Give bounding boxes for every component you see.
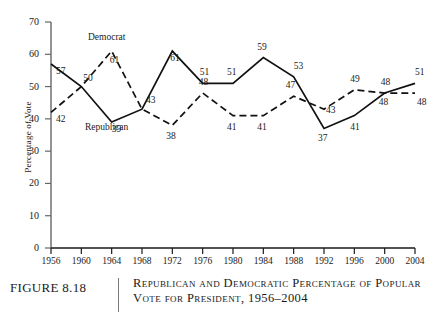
point-value-label: 48	[199, 77, 209, 87]
point-value-label: 41	[350, 122, 360, 132]
y-axis-tick-label: 40	[13, 113, 39, 124]
point-value-label: 57	[56, 66, 66, 76]
figure-container: Percentage of Vote 010203040506070 19561…	[0, 0, 448, 320]
y-axis-tick-label: 0	[13, 242, 39, 253]
y-axis-ticks	[45, 22, 51, 248]
point-value-label: 51	[415, 67, 425, 77]
x-axis-tick-label: 1964	[95, 256, 129, 266]
point-value-label: 61	[110, 55, 120, 65]
figure-caption: FIGURE 8.18 Republican and Democratic Pe…	[0, 276, 448, 320]
point-value-label: 50	[83, 73, 93, 83]
series-lines	[51, 51, 415, 128]
line-chart-svg	[0, 0, 448, 270]
point-value-label: 43	[326, 105, 336, 115]
caption-divider	[118, 278, 119, 312]
point-value-label: 48	[417, 97, 427, 107]
x-axis-tick-label: 1960	[64, 256, 98, 266]
y-axis-tick-label: 30	[13, 145, 39, 156]
x-axis-ticks	[51, 248, 415, 254]
point-value-label: 51	[227, 67, 237, 77]
x-axis-tick-label: 1992	[307, 256, 341, 266]
x-axis-tick-label: 2004	[398, 256, 432, 266]
point-value-label: 53	[294, 61, 304, 71]
y-axis-tick-label: 70	[13, 16, 39, 27]
point-value-label: 47	[286, 80, 296, 90]
x-axis-tick-label: 1976	[186, 256, 220, 266]
point-value-label: 41	[227, 122, 237, 132]
x-axis-tick-label: 1984	[246, 256, 280, 266]
point-value-label: 51	[200, 67, 210, 77]
point-value-label: 48	[381, 77, 391, 87]
series-label-democrat: Democrat	[88, 32, 125, 42]
point-value-label: 59	[257, 42, 267, 52]
x-axis-tick-label: 1972	[155, 256, 189, 266]
y-axis-tick-label: 20	[13, 177, 39, 188]
point-value-label: 43	[146, 95, 156, 105]
caption-line-1: Republican and Democratic Percentage of …	[133, 276, 448, 291]
point-value-label: 42	[56, 114, 66, 124]
caption-text: Republican and Democratic Percentage of …	[133, 276, 448, 306]
point-value-label: 41	[257, 122, 267, 132]
point-value-label: 38	[166, 131, 176, 141]
y-axis-tick-label: 50	[13, 81, 39, 92]
x-axis-tick-label: 1996	[337, 256, 371, 266]
figure-number: FIGURE 8.18	[0, 276, 118, 296]
caption-line-2: Vote for President, 1956–2004	[133, 291, 448, 306]
point-value-label: 61	[170, 53, 180, 63]
point-value-label: 48	[379, 97, 389, 107]
x-axis-tick-label: 1980	[216, 256, 250, 266]
x-axis-tick-label: 2000	[368, 256, 402, 266]
y-axis-tick-label: 10	[13, 210, 39, 221]
x-axis-tick-label: 1956	[34, 256, 68, 266]
point-value-label: 37	[318, 133, 328, 143]
series-label-republican: Republican	[85, 122, 128, 132]
x-axis-tick-label: 1968	[125, 256, 159, 266]
x-axis-tick-label: 1988	[277, 256, 311, 266]
point-value-label: 49	[350, 74, 360, 84]
chart-plot-area: Percentage of Vote 010203040506070 19561…	[0, 0, 448, 270]
y-axis-tick-label: 60	[13, 48, 39, 59]
